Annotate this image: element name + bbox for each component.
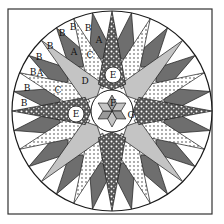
piece-label-d: D	[81, 76, 88, 86]
piece-label-b: B	[85, 23, 92, 33]
piece-label-b: B	[24, 83, 31, 93]
piece-label-f: F	[110, 98, 116, 108]
compass-figure: BBBBBBBBAAACCDEEFG	[0, 0, 224, 224]
piece-label-g: G	[127, 110, 134, 120]
piece-label-a: A	[36, 68, 44, 78]
piece-label-a: A	[70, 47, 78, 57]
piece-label-e: E	[73, 109, 80, 119]
piece-label-b: B	[36, 52, 43, 62]
piece-label-b: B	[70, 22, 77, 32]
piece-label-b: B	[30, 67, 37, 77]
piece-label-e: E	[110, 70, 117, 80]
piece-label-b: B	[59, 28, 66, 38]
piece-label-a: A	[95, 35, 103, 45]
piece-label-c: C	[87, 50, 94, 60]
piece-label-c: C	[55, 85, 62, 95]
piece-label-b: B	[21, 98, 28, 108]
quilt-diagram: BBBBBBBBAAACCDEEFG	[0, 0, 224, 224]
piece-label-b: B	[47, 41, 54, 51]
